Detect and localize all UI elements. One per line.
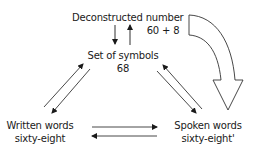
- spoken-words-title: Spoken words: [172, 120, 244, 132]
- arrow-up-left-icon: [163, 65, 202, 109]
- curved-arrow-icon: [189, 15, 243, 110]
- arrow-down-left-icon: [52, 69, 90, 113]
- spoken-words-value: sixty-eight': [172, 133, 244, 145]
- number-representation-diagram: Deconstructed number 60 + 8 Set of symbo…: [0, 0, 258, 157]
- set-of-symbols-title: Set of symbols: [86, 50, 160, 62]
- deconstructed-number-title: Deconstructed number: [72, 12, 176, 24]
- arrow-down-right-icon: [157, 71, 196, 113]
- written-words-value: sixty-eight: [4, 133, 76, 145]
- set-of-symbols-value: 68: [108, 63, 138, 75]
- written-words-title: Written words: [4, 120, 76, 132]
- arrow-up-right-icon: [44, 64, 83, 107]
- deconstructed-number-value: 60 + 8: [145, 25, 181, 37]
